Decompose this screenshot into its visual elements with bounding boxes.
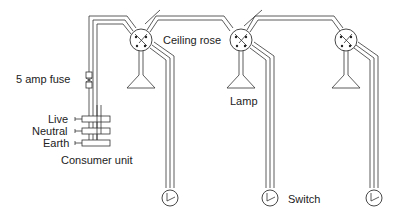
ceiling-rose-icon xyxy=(230,29,252,51)
consumer-unit-label: Consumer unit xyxy=(61,155,133,166)
switch-drop-1 xyxy=(150,42,174,188)
ceiling-rose-icon xyxy=(130,29,152,51)
live-label: Live xyxy=(48,114,68,125)
switch-icon xyxy=(262,190,278,206)
lamp-icon xyxy=(127,51,155,88)
neutral-label: Neutral xyxy=(32,126,67,137)
switch-drop-2 xyxy=(250,42,274,188)
earth-label: Earth xyxy=(43,138,69,149)
ceiling-rose-label: Ceiling rose xyxy=(163,35,221,46)
consumer-unit-icon xyxy=(75,105,110,146)
lamp-label: Lamp xyxy=(230,96,258,107)
lamp-icon xyxy=(332,51,360,88)
link-cable-1 xyxy=(145,10,233,32)
fuse-icon xyxy=(86,72,92,88)
switch-icon xyxy=(162,190,178,206)
lamp-icon xyxy=(227,51,255,88)
ceiling-rose-icon xyxy=(335,29,357,51)
switch-icon xyxy=(366,190,382,206)
link-cable-2 xyxy=(244,10,343,32)
main-feed-cable xyxy=(89,16,136,145)
switch-label: Switch xyxy=(288,194,320,205)
switch-drop-3 xyxy=(354,42,378,188)
wiring-diagram xyxy=(0,0,402,219)
fuse-label: 5 amp fuse xyxy=(16,74,70,85)
